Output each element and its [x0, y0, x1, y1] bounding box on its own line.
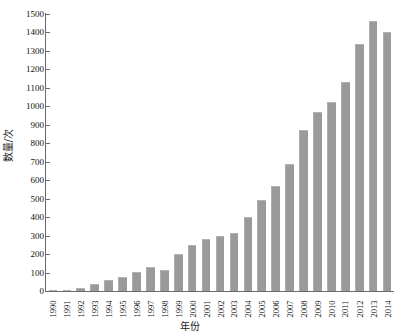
bar — [271, 186, 280, 291]
x-axis-tick-label: 2005 — [256, 292, 268, 328]
bar — [132, 272, 141, 291]
y-axis-tick-label: 800 — [31, 138, 45, 148]
y-axis-tick-labels: 0100200300400500600700800900100011001200… — [14, 0, 44, 333]
x-axis-tick-label-text: 2012 — [354, 301, 364, 318]
x-axis-tick-label-text: 2011 — [340, 301, 350, 318]
y-axis-tick — [46, 51, 50, 52]
bar — [63, 290, 72, 291]
y-axis-tick — [46, 106, 50, 107]
x-axis-tick-label: 1998 — [158, 292, 170, 328]
x-axis-tick-label-text: 1995 — [118, 301, 128, 318]
bar — [299, 130, 308, 291]
x-axis-tick-label-text: 1991 — [62, 301, 72, 318]
x-axis-tick-label: 1993 — [89, 292, 101, 328]
bar — [285, 164, 294, 291]
bar — [216, 236, 225, 291]
bar — [76, 288, 85, 291]
bar — [341, 82, 350, 291]
y-axis-tick — [46, 217, 50, 218]
y-axis-tick — [46, 199, 50, 200]
y-axis-tick-label: 1000 — [26, 101, 44, 111]
x-axis-tick-label: 1992 — [75, 292, 87, 328]
bar — [313, 112, 322, 291]
x-axis-tick-label: 2007 — [284, 292, 296, 328]
x-axis-tick-label-text: 2003 — [229, 301, 239, 318]
bar — [355, 44, 364, 291]
y-axis-tick-label: 0 — [40, 286, 45, 296]
x-axis-tick-label-text: 2009 — [312, 301, 322, 318]
x-axis-tick-label-text: 1993 — [90, 301, 100, 318]
y-axis-tick-label: 400 — [31, 212, 45, 222]
bar — [160, 270, 169, 291]
x-axis-tick-label-text: 2010 — [326, 301, 336, 318]
x-axis-tick-label: 2006 — [270, 292, 282, 328]
bar — [104, 280, 113, 291]
x-axis-tick-label: 2014 — [381, 292, 393, 328]
bar — [369, 21, 378, 291]
x-axis-tick-label: 1991 — [61, 292, 73, 328]
x-axis-tick-label: 2011 — [339, 292, 351, 328]
y-axis-tick-label: 1300 — [26, 46, 44, 56]
y-axis-tick-label: 700 — [31, 157, 45, 167]
y-axis-tick — [46, 88, 50, 89]
x-axis-tick-label-text: 2007 — [285, 301, 295, 318]
y-axis-tick — [46, 69, 50, 70]
x-axis-tick-label: 1996 — [130, 292, 142, 328]
x-axis-tick-label: 2009 — [311, 292, 323, 328]
x-axis-tick-label-text: 1996 — [131, 301, 141, 318]
x-axis-tick-label-text: 1999 — [173, 301, 183, 318]
x-axis-tick-label-text: 1990 — [48, 301, 58, 318]
y-axis-tick-label: 200 — [31, 249, 45, 259]
x-axis-tick-label: 1990 — [47, 292, 59, 328]
bar — [383, 32, 392, 291]
x-axis-tick-label: 2013 — [367, 292, 379, 328]
y-axis-tick — [46, 125, 50, 126]
x-axis-tick-labels: 1990199119921993199419951996199719981999… — [46, 292, 394, 333]
y-axis-tick — [46, 180, 50, 181]
x-axis-tick-label: 1994 — [103, 292, 115, 328]
y-axis-tick-label: 1100 — [26, 83, 44, 93]
x-axis-tick-label-text: 2013 — [368, 301, 378, 318]
x-axis-tick-label: 2002 — [214, 292, 226, 328]
plot-area — [46, 14, 394, 291]
y-axis-tick — [46, 273, 50, 274]
x-axis-tick-label: 1997 — [144, 292, 156, 328]
x-axis-tick-label: 2004 — [242, 292, 254, 328]
y-axis-tick — [46, 254, 50, 255]
x-axis-tick-label: 2003 — [228, 292, 240, 328]
y-axis-tick-label: 300 — [31, 231, 45, 241]
y-axis-tick — [46, 32, 50, 33]
y-axis-tick-label: 500 — [31, 194, 45, 204]
x-axis-tick-label: 2012 — [353, 292, 365, 328]
x-axis-tick-label-text: 1992 — [76, 301, 86, 318]
y-axis-tick-label: 100 — [31, 268, 45, 278]
x-axis-tick-label-text: 1998 — [159, 301, 169, 318]
bar — [257, 200, 266, 291]
bar — [244, 217, 253, 291]
bar — [146, 267, 155, 291]
bar-chart: 数量/次 01002003004005006007008009001000110… — [0, 0, 396, 333]
y-axis-tick — [46, 143, 50, 144]
x-axis-tick-label-text: 1994 — [104, 301, 114, 318]
y-axis-tick-label: 900 — [31, 120, 45, 130]
x-axis-tick-label-text: 2004 — [243, 301, 253, 318]
x-axis-title: 年份 — [180, 318, 200, 333]
x-axis-tick-label-text: 2000 — [187, 301, 197, 318]
x-axis-tick-label-text: 2006 — [271, 301, 281, 318]
y-axis-tick — [46, 236, 50, 237]
bar — [230, 233, 239, 291]
x-axis-tick-label-text: 1997 — [145, 301, 155, 318]
bar — [174, 254, 183, 291]
bar — [118, 277, 127, 291]
x-axis-tick-label-text: 2002 — [215, 301, 225, 318]
x-axis-tick-label: 2001 — [200, 292, 212, 328]
bar — [327, 102, 336, 291]
y-axis-tick-label: 600 — [31, 175, 45, 185]
x-axis-tick-label-text: 2005 — [257, 301, 267, 318]
y-axis-tick — [46, 162, 50, 163]
bar — [90, 284, 99, 291]
bar — [188, 245, 197, 291]
x-axis-tick-label: 1995 — [117, 292, 129, 328]
y-axis-tick-label: 1500 — [26, 9, 44, 19]
bar — [202, 239, 211, 291]
